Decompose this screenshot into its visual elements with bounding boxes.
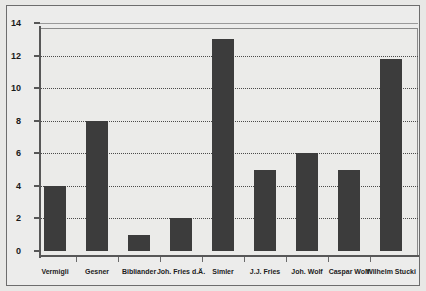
x-axis-category-label: Simler <box>212 268 233 276</box>
y-axis-tick <box>34 22 40 24</box>
x-axis-tick <box>202 257 203 262</box>
bar <box>380 59 402 251</box>
x-axis-tick <box>244 257 245 262</box>
x-axis-category-label: Vermigli <box>41 268 68 276</box>
y-axis-tick-label: 0 <box>0 247 21 256</box>
x-axis-category-label: J.J. Fries <box>250 268 280 276</box>
x-axis-category-label: Joh. Fries d.Ä. <box>157 268 205 276</box>
x-axis-category-label: Bibliander <box>122 268 156 276</box>
y-axis-tick-label: 6 <box>0 149 21 158</box>
x-axis-category-label: Wilhelm Stucki <box>366 268 416 276</box>
y-axis-tick-label: 10 <box>0 84 21 93</box>
bar <box>338 170 360 251</box>
y-axis-tick-label: 14 <box>0 19 21 28</box>
x-axis-tick <box>118 257 119 262</box>
x-axis-tick <box>286 257 287 262</box>
y-axis-tick-label: 2 <box>0 214 21 223</box>
x-axis-category-label: Gesner <box>85 268 109 276</box>
bar <box>254 170 276 251</box>
y-axis-tick-label: 12 <box>0 52 21 61</box>
x-axis-line <box>39 255 419 257</box>
chart-screenshot: 02468101214 VermigliGesnerBiblianderJoh.… <box>0 0 426 291</box>
x-axis-tick <box>328 257 329 262</box>
y-axis-line <box>39 26 41 258</box>
x-axis-category-label: Joh. Wolf <box>291 268 322 276</box>
plot-top-border <box>40 28 418 29</box>
x-axis-tick <box>160 257 161 262</box>
x-axis-tick <box>76 257 77 262</box>
bar <box>296 153 318 251</box>
bar <box>44 186 66 251</box>
figure-frame: 02468101214 VermigliGesnerBiblianderJoh.… <box>6 5 420 286</box>
x-axis-category-label: Caspar Wolf <box>329 268 370 276</box>
bar <box>212 39 234 251</box>
y-axis-tick-label: 8 <box>0 117 21 126</box>
gridline <box>40 23 418 24</box>
bar <box>86 121 108 251</box>
x-axis-tick <box>370 257 371 262</box>
y-axis-tick-label: 4 <box>0 182 21 191</box>
bar <box>128 235 150 251</box>
bar <box>170 218 192 251</box>
plot-right-border <box>417 28 418 256</box>
